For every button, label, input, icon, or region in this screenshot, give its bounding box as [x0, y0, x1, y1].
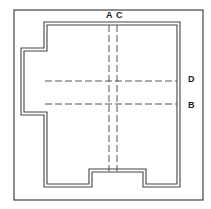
wall-outer-line	[21, 22, 180, 187]
section-label-a: A	[106, 10, 113, 20]
section-label-b: B	[188, 100, 195, 110]
wall-inner-line	[24, 25, 177, 184]
floor-plan-svg: ACDB	[0, 0, 211, 209]
section-label-c: C	[116, 10, 123, 20]
section-label-d: D	[188, 74, 195, 84]
section-lines	[45, 25, 177, 171]
floor-plan-diagram: ACDB	[0, 0, 211, 209]
